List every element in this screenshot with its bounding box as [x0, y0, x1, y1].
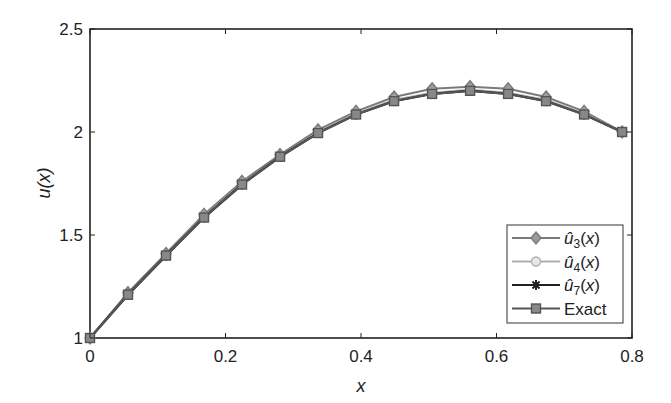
square-marker-icon: [542, 97, 551, 106]
x-axis-label: x: [356, 376, 367, 396]
x-tick-label: 0.6: [485, 347, 509, 366]
square-marker-icon: [238, 180, 247, 189]
square-marker-icon: [314, 129, 323, 138]
square-marker-icon: [466, 86, 475, 95]
y-tick-label: 2.5: [59, 20, 83, 39]
square-marker-icon: [428, 89, 437, 98]
square-marker-icon: [124, 290, 133, 299]
star-marker-icon: [531, 280, 541, 290]
legend: û3(x)û4(x)û7(x)Exact: [507, 225, 623, 323]
legend-label: û7(x): [564, 276, 600, 298]
square-marker-icon: [162, 251, 171, 260]
square-marker-icon: [580, 110, 589, 119]
square-marker-icon: [352, 110, 361, 119]
chart: 00.20.40.60.811.522.5 x u(x) û3(x)û4(x)û…: [0, 0, 671, 403]
square-marker-icon: [276, 152, 285, 161]
square-marker-icon: [504, 89, 513, 98]
legend-label: Exact: [564, 300, 607, 319]
x-tick-label: 0.8: [620, 347, 644, 366]
x-tick-label: 0.4: [349, 347, 373, 366]
legend-label: û3(x): [564, 229, 600, 251]
legend-label: û4(x): [564, 253, 600, 275]
y-tick-label: 1: [74, 329, 83, 348]
square-marker-icon: [200, 213, 209, 222]
square-marker-icon: [532, 304, 541, 313]
y-tick-label: 1.5: [59, 226, 83, 245]
circle-marker-icon: [532, 257, 541, 266]
y-axis-label: u(x): [34, 168, 54, 199]
x-tick-label: 0: [85, 347, 94, 366]
square-marker-icon: [390, 97, 399, 106]
x-tick-label: 0.2: [214, 347, 238, 366]
y-tick-label: 2: [74, 123, 83, 142]
square-marker-icon: [618, 128, 627, 137]
